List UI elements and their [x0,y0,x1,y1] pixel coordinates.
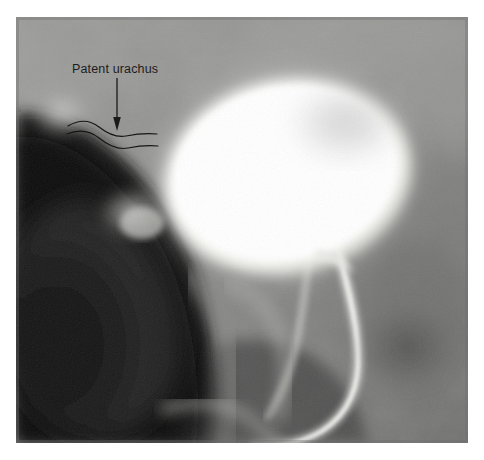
film-grain [16,17,468,443]
radiograph-image [16,17,468,443]
radiograph-canvas [16,17,468,443]
screenshot-root: Patent urachus [0,0,484,460]
